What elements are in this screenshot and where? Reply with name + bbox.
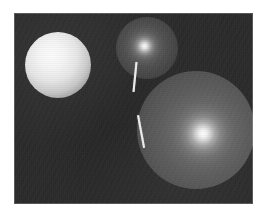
scene-root	[0, 0, 266, 216]
sphere-left	[25, 32, 91, 98]
sphere-large	[137, 71, 253, 189]
figure-caption	[0, 0, 1, 1]
rendered-image-plate	[14, 13, 253, 204]
sphere-top	[116, 17, 178, 79]
